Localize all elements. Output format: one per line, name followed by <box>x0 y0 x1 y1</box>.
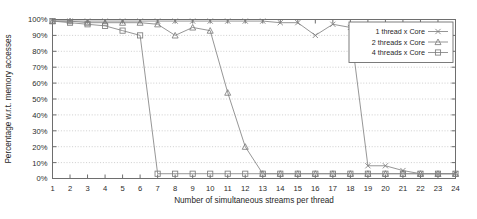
y-tick-label: 60% <box>32 79 47 88</box>
y-tick-label: 90% <box>32 31 47 40</box>
legend-label: 2 threads x Core <box>372 38 425 47</box>
y-tick-label: 70% <box>32 63 47 72</box>
chart-container: 0%10%20%30%40%50%60%70%80%90%100%1234567… <box>0 0 477 219</box>
y-tick-label: 50% <box>32 95 47 104</box>
x-tick-label: 11 <box>224 184 232 193</box>
x-tick-label: 4 <box>103 184 107 193</box>
x-tick-label: 17 <box>329 184 337 193</box>
line-chart: 0%10%20%30%40%50%60%70%80%90%100%1234567… <box>0 0 477 219</box>
x-tick-label: 24 <box>451 184 459 193</box>
chart-legend: 1 thread x Core2 threads x Core4 threads… <box>349 22 453 63</box>
x-tick-label: 22 <box>416 184 424 193</box>
x-tick-label: 5 <box>120 184 124 193</box>
x-axis-title: Number of simultaneous streams per threa… <box>174 196 334 205</box>
x-tick-label: 16 <box>311 184 319 193</box>
x-tick-label: 15 <box>294 184 302 193</box>
x-tick-label: 7 <box>156 184 160 193</box>
legend-label: 4 threads x Core <box>372 48 425 57</box>
x-tick-label: 19 <box>364 184 372 193</box>
x-tick-label: 18 <box>346 184 354 193</box>
x-tick-label: 13 <box>259 184 267 193</box>
y-axis-title: Percentage w.r.t. memory accesses <box>4 34 13 163</box>
x-tick-label: 14 <box>276 184 284 193</box>
x-tick-label: 1 <box>50 184 54 193</box>
x-tick-label: 2 <box>68 184 72 193</box>
y-tick-label: 100% <box>28 15 48 24</box>
x-tick-label: 10 <box>206 184 214 193</box>
y-tick-label: 0% <box>37 174 48 183</box>
x-tick-label: 21 <box>399 184 407 193</box>
x-tick-label: 6 <box>138 184 142 193</box>
x-tick-label: 8 <box>173 184 177 193</box>
y-tick-label: 30% <box>32 127 47 136</box>
x-tick-label: 23 <box>434 184 442 193</box>
y-tick-label: 80% <box>32 47 47 56</box>
x-tick-label: 12 <box>241 184 249 193</box>
legend-label: 1 thread x Core <box>375 27 425 36</box>
x-tick-label: 20 <box>381 184 389 193</box>
x-tick-label: 9 <box>191 184 195 193</box>
y-tick-label: 20% <box>32 143 47 152</box>
x-tick-label: 3 <box>85 184 89 193</box>
y-tick-label: 40% <box>32 111 47 120</box>
y-tick-label: 10% <box>32 159 47 168</box>
